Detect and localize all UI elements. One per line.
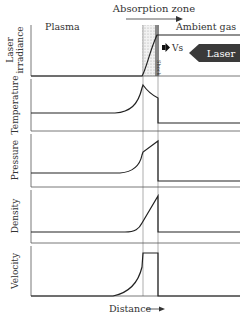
- y-label-velocity: Velocity: [10, 252, 20, 290]
- y-label-pressure: Pressure: [10, 140, 20, 180]
- plasma-label: Plasma: [45, 21, 80, 32]
- y-label-irradiance-1: Laser: [5, 37, 15, 63]
- pressure-curve: [31, 141, 240, 181]
- y-label-irradiance-2: irradiance: [15, 26, 25, 73]
- x-axis-label: Distance: [109, 303, 151, 314]
- absorption-zone-label: Absorption zone: [112, 3, 196, 14]
- shock-label: Shock: [156, 60, 162, 76]
- panel-axes: [31, 25, 240, 296]
- density-curve: [31, 196, 240, 232]
- absorption-zone-arrow: [126, 16, 183, 22]
- temperature-curve: [31, 85, 240, 123]
- vs-arrow-icon: [162, 43, 170, 52]
- y-label-temperature: Temperature: [10, 76, 20, 135]
- velocity-curve: [31, 253, 240, 296]
- lsd-wave-diagram: Absorption zone Plasma Ambient gas Shock…: [0, 0, 251, 318]
- y-label-density: Density: [10, 198, 20, 233]
- ambient-gas-label: Ambient gas: [175, 21, 236, 32]
- laser-label: Laser: [207, 48, 236, 59]
- vs-label: Vs: [171, 43, 183, 53]
- absorption-zone-band: [142, 25, 155, 76]
